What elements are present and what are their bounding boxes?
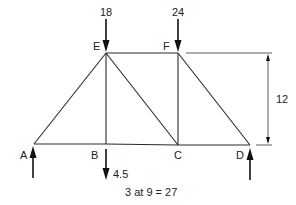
member-BC bbox=[106, 144, 178, 145]
reaction-arrow-D bbox=[247, 148, 254, 180]
node-label-F: F bbox=[163, 40, 170, 52]
reaction-arrow-A bbox=[30, 146, 37, 178]
dim-arrow-up-icon bbox=[266, 54, 270, 61]
height-label: 12 bbox=[276, 93, 288, 105]
arrow-up-icon bbox=[30, 146, 37, 158]
member-AE bbox=[34, 53, 106, 144]
load-arrow-B bbox=[103, 149, 110, 180]
truss-diagram: 12 18 24 4.5 A B C D E bbox=[0, 0, 296, 205]
truss-members bbox=[34, 53, 250, 145]
dim-arrow-down-icon bbox=[266, 137, 270, 144]
node-label-A: A bbox=[20, 149, 28, 161]
load-label-B: 4.5 bbox=[113, 168, 128, 180]
member-FD bbox=[178, 53, 250, 145]
node-label-E: E bbox=[93, 40, 100, 52]
load-label-F: 24 bbox=[172, 6, 184, 18]
node-label-B: B bbox=[91, 149, 98, 161]
load-label-E: 18 bbox=[100, 6, 112, 18]
arrow-up-icon bbox=[247, 148, 254, 160]
load-arrow-E bbox=[103, 19, 110, 52]
load-arrow-F bbox=[175, 19, 182, 52]
height-dimension: 12 bbox=[186, 53, 288, 145]
arrow-down-icon bbox=[103, 40, 110, 52]
arrow-down-icon bbox=[175, 40, 182, 52]
node-label-C: C bbox=[174, 149, 182, 161]
node-label-D: D bbox=[236, 149, 244, 161]
member-EC bbox=[106, 53, 178, 145]
span-label: 3 at 9 = 27 bbox=[125, 186, 177, 198]
arrow-down-icon bbox=[103, 168, 110, 180]
